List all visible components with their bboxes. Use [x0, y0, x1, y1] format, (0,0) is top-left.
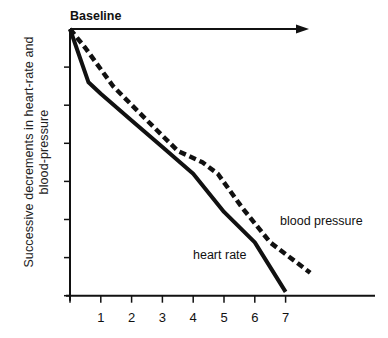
x-tick-label: 2	[128, 310, 135, 325]
annotation-heart-rate: heart rate	[193, 248, 247, 262]
x-tick-label: 4	[190, 310, 197, 325]
x-tick-label: 3	[159, 310, 166, 325]
arrow-head-icon	[296, 25, 309, 34]
x-tick-label: 6	[251, 310, 258, 325]
annotation-blood-pressure: blood pressure	[280, 214, 363, 228]
blood-pressure-line	[70, 29, 310, 273]
series-lines	[70, 29, 310, 292]
line-chart: 1234567	[0, 0, 388, 338]
x-tick-label: 1	[97, 310, 104, 325]
x-tick-labels: 1234567	[97, 310, 289, 325]
x-tick-label: 5	[220, 310, 227, 325]
x-tick-label: 7	[282, 310, 289, 325]
